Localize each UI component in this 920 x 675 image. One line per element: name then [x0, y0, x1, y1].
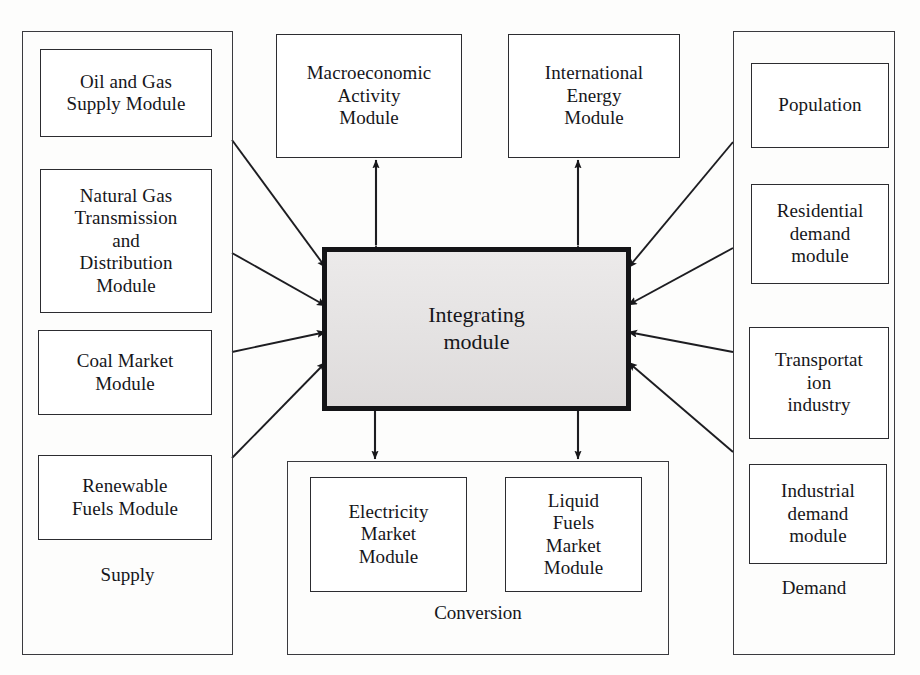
module-natural-gas-transmission-and-distribution[interactable]: Natural Gas Transmission and Distributio… [40, 169, 212, 313]
arrow-renewable-fuels [232, 362, 326, 458]
module-transportation-industry[interactable]: Transportat ion industry [749, 327, 889, 439]
arrows-supply-to-center [232, 140, 326, 458]
module-renewable-fuels[interactable]: Renewable Fuels Module [38, 455, 212, 540]
arrow-transportation [628, 332, 733, 352]
arrow-residential-demand [628, 248, 733, 305]
diagram-canvas: Oil and Gas Supply Module Natural Gas Tr… [0, 0, 920, 675]
module-coal-market[interactable]: Coal Market Module [38, 330, 212, 415]
integrating-module[interactable]: Integrating module [322, 247, 631, 411]
arrow-industrial-demand [628, 362, 733, 452]
arrow-coal-market [232, 332, 326, 352]
arrow-natural-gas [232, 253, 326, 306]
arrow-population [628, 142, 733, 268]
demand-caption: Demand [733, 578, 895, 599]
arrows-center-to-conversion [375, 411, 578, 459]
module-international-energy[interactable]: International Energy Module [508, 34, 680, 158]
module-liquid-fuels-market[interactable]: Liquid Fuels Market Module [505, 477, 642, 592]
supply-caption: Supply [22, 565, 233, 586]
module-electricity-market[interactable]: Electricity Market Module [310, 477, 467, 592]
module-population[interactable]: Population [751, 63, 889, 148]
arrow-oil-gas-supply [232, 140, 326, 268]
module-residential-demand[interactable]: Residential demand module [751, 184, 889, 284]
arrows-demand-to-center [628, 142, 733, 452]
conversion-caption: Conversion [287, 603, 669, 624]
arrows-center-to-top [376, 160, 578, 245]
module-oil-and-gas-supply[interactable]: Oil and Gas Supply Module [40, 49, 212, 137]
module-macroeconomic-activity[interactable]: Macroeconomic Activity Module [276, 34, 462, 158]
module-industrial-demand[interactable]: Industrial demand module [749, 464, 887, 564]
